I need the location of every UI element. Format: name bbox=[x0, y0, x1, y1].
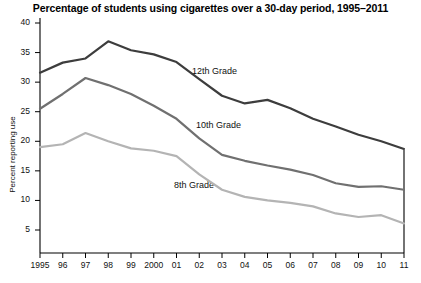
chart-container: Percentage of students using cigarettes … bbox=[0, 0, 421, 283]
plot-area bbox=[0, 0, 421, 283]
series-line-12th-grade bbox=[40, 41, 404, 149]
series-line-8th-grade bbox=[40, 133, 404, 223]
